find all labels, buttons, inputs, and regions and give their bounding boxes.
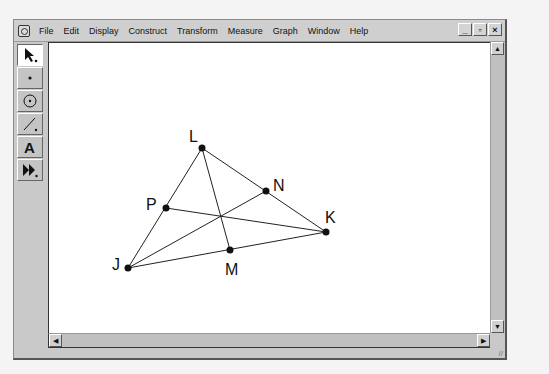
selection-arrow-tool[interactable] — [17, 44, 43, 66]
compass-tool[interactable] — [17, 90, 43, 112]
straightedge-tool[interactable] — [17, 113, 43, 135]
window-controls: _ ▫ × — [458, 23, 502, 36]
point-icon — [22, 70, 38, 86]
point-N[interactable] — [263, 188, 270, 195]
scroll-down-button[interactable]: ▼ — [491, 320, 504, 333]
point-K[interactable] — [323, 229, 330, 236]
minimize-button[interactable]: _ — [458, 23, 472, 36]
text-a-icon: A — [22, 139, 38, 155]
label-P[interactable]: P — [146, 196, 157, 213]
sketch-canvas[interactable]: L N P K M J — [48, 42, 490, 333]
scroll-left-button[interactable]: ◀ — [49, 334, 62, 347]
vertical-scrollbar[interactable]: ▲ ▼ — [490, 42, 505, 333]
menu-transform[interactable]: Transform — [172, 26, 223, 36]
menu-edit[interactable]: Edit — [59, 26, 85, 36]
point-M[interactable] — [227, 247, 234, 254]
label-J[interactable]: J — [112, 256, 120, 273]
svg-text:A: A — [24, 139, 35, 155]
label-M[interactable]: M — [225, 261, 238, 278]
label-L[interactable]: L — [189, 128, 198, 145]
app-icon[interactable] — [18, 25, 30, 37]
arrow-icon — [22, 47, 38, 63]
point-tool[interactable] — [17, 67, 43, 89]
straightedge-icon — [22, 116, 38, 132]
status-bar: // — [14, 349, 505, 359]
compass-icon — [22, 93, 38, 109]
median-PK[interactable] — [166, 208, 326, 232]
menu-window[interactable]: Window — [303, 26, 345, 36]
menu-graph[interactable]: Graph — [268, 26, 303, 36]
custom-tool[interactable] — [17, 159, 43, 181]
sketchpad-window: File Edit Display Construct Transform Me… — [13, 19, 507, 360]
menu-construct[interactable]: Construct — [124, 26, 173, 36]
resize-grip-icon[interactable]: // — [499, 349, 503, 358]
menu-bar: File Edit Display Construct Transform Me… — [14, 20, 505, 42]
menu-file[interactable]: File — [34, 26, 59, 36]
restore-button[interactable]: ▫ — [473, 23, 487, 36]
menu-help[interactable]: Help — [345, 26, 374, 36]
menu-measure[interactable]: Measure — [223, 26, 268, 36]
close-button[interactable]: × — [488, 23, 502, 36]
custom-tools-icon — [22, 162, 38, 178]
text-tool[interactable]: A — [17, 136, 43, 158]
horizontal-scrollbar[interactable]: ◀ ▶ — [48, 333, 490, 348]
menu-display[interactable]: Display — [84, 26, 124, 36]
median-LM[interactable] — [202, 148, 230, 250]
scroll-right-button[interactable]: ▶ — [477, 334, 490, 347]
scroll-up-button[interactable]: ▲ — [491, 42, 504, 55]
toolbox: A — [17, 44, 45, 182]
triangle-sketch: L N P K M J — [49, 43, 490, 333]
point-L[interactable] — [199, 145, 206, 152]
point-J[interactable] — [125, 265, 132, 272]
label-K[interactable]: K — [325, 209, 336, 226]
point-P[interactable] — [163, 205, 170, 212]
label-N[interactable]: N — [273, 177, 285, 194]
